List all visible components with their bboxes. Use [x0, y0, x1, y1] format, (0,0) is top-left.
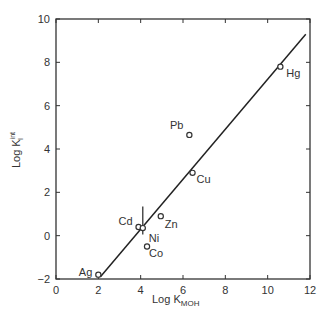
- point-label: Zn: [165, 218, 178, 230]
- x-tick-label: 10: [262, 284, 274, 296]
- y-tick-label: 2: [44, 186, 50, 198]
- y-tick-label: 0: [44, 230, 50, 242]
- svg-text:Log KintI: Log KintI: [9, 132, 24, 168]
- x-axis-label: Log KMOH: [152, 293, 200, 308]
- plot-frame: [56, 19, 310, 279]
- data-point-zn: Zn: [158, 214, 177, 231]
- point-label: Cu: [197, 173, 211, 185]
- x-tick-label: 12: [304, 284, 316, 296]
- data-point-hg: Hg: [278, 64, 301, 79]
- point-label: Ag: [79, 266, 92, 278]
- y-tick-label: −2: [37, 273, 50, 285]
- y-tick-label: 6: [44, 100, 50, 112]
- x-tick-label: 0: [53, 284, 59, 296]
- point-label: Cd: [118, 215, 132, 227]
- data-point-cd: Cd: [118, 215, 141, 230]
- data-point-co: Co: [144, 244, 163, 259]
- data-point-ag: Ag: [79, 266, 101, 278]
- x-tick-label: 8: [222, 284, 228, 296]
- fit-line: [100, 34, 305, 277]
- x-tick-label: 2: [95, 284, 101, 296]
- scatter-chart: 024681012−20246810 AgCdNiCoZnPbCuHg Log …: [0, 0, 326, 321]
- data-point-cu: Cu: [190, 170, 211, 185]
- point-label: Ni: [149, 232, 159, 244]
- point-label: Hg: [286, 67, 300, 79]
- y-tick-label: 4: [44, 143, 50, 155]
- point-label: Pb: [170, 119, 183, 131]
- svg-text:Log KMOH: Log KMOH: [152, 293, 200, 308]
- x-tick-label: 4: [138, 284, 144, 296]
- data-point-pb: Pb: [170, 119, 192, 138]
- point-label: Co: [149, 247, 163, 259]
- y-axis-label: Log KintI: [9, 132, 24, 168]
- x-tick-label: 6: [180, 284, 186, 296]
- axis-ticks: 024681012−20246810: [37, 13, 316, 296]
- y-tick-label: 10: [38, 13, 50, 25]
- y-tick-label: 8: [44, 56, 50, 68]
- data-point-ni: Ni: [140, 206, 159, 244]
